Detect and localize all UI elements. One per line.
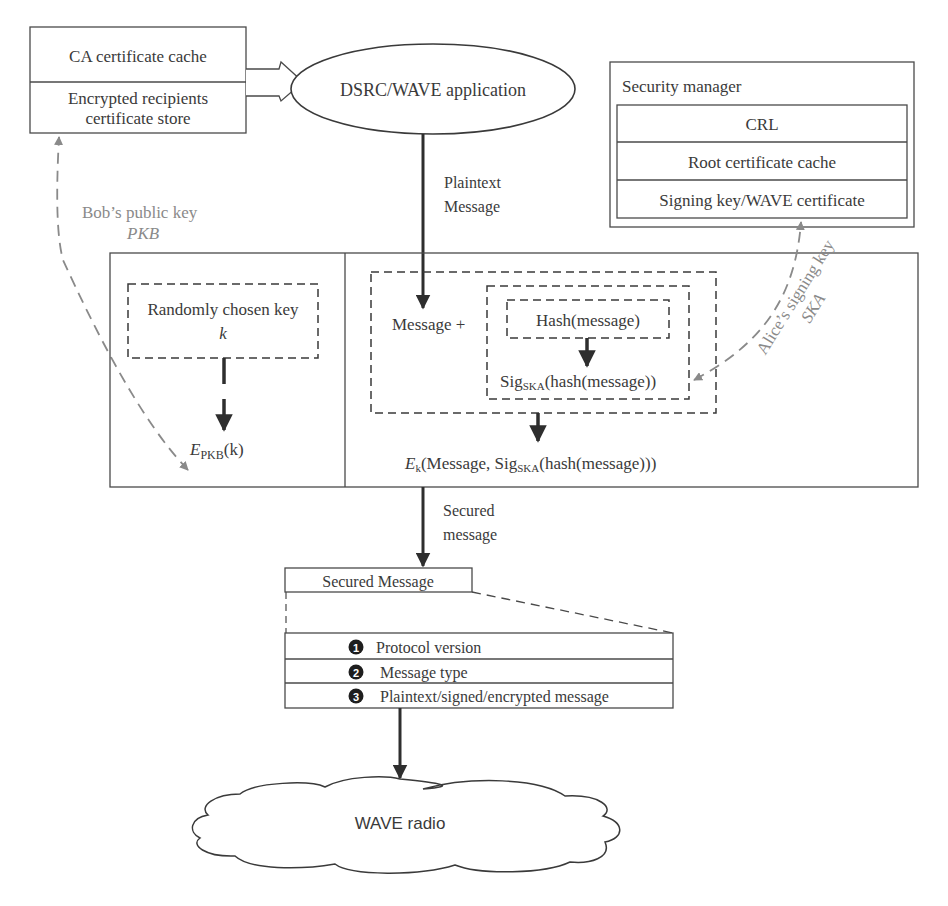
certificate-store-label: certificate store <box>85 109 190 128</box>
bob-key-label: Bob’s public key <box>82 203 198 222</box>
plaintext-label-line2: Message <box>444 198 500 216</box>
secured-message-title: Secured Message <box>322 573 434 591</box>
secured-label-line2: message <box>443 526 497 544</box>
alice-key-label: Alice’s signing key <box>752 236 838 358</box>
diagram-canvas: CA certificate cache Encrypted recipient… <box>0 0 948 906</box>
alice-key-label-group: Alice’s signing key SKA <box>752 236 856 369</box>
encrypted-output-label: Ek(Message, SigSKA(hash(message))) <box>404 454 656 474</box>
random-key-label: Randomly chosen key <box>147 300 299 319</box>
signature-label: SigSKA(hash(message)) <box>500 372 656 392</box>
root-certificate-cache-row: Root certificate cache <box>688 153 836 172</box>
random-key-symbol: k <box>219 324 227 343</box>
svg-text:2: 2 <box>353 667 359 679</box>
encrypted-key-label: EPKB(k) <box>189 440 244 462</box>
dsrc-wave-application: DSRC/WAVE application <box>291 44 575 134</box>
bob-key-symbol: PKB <box>126 224 160 243</box>
hash-label: Hash(message) <box>536 311 640 330</box>
signing-key-row: Signing key/WAVE certificate <box>659 191 865 210</box>
application-label: DSRC/WAVE application <box>340 80 526 100</box>
field-label: Plaintext/signed/encrypted message <box>380 688 609 706</box>
encryption-panel: Randomly chosen key k EPKB(k) <box>128 284 318 462</box>
wave-radio-label: WAVE radio <box>355 814 446 833</box>
ca-certificate-cache-label: CA certificate cache <box>69 47 207 66</box>
field-label: Protocol version <box>376 639 481 656</box>
security-manager: Security manager CRL Root certificate ca… <box>610 62 914 227</box>
wave-radio-cloud: WAVE radio <box>192 777 619 873</box>
svg-text:1: 1 <box>353 642 359 654</box>
plaintext-label-line1: Plaintext <box>444 174 501 191</box>
security-manager-title: Security manager <box>622 77 742 96</box>
encrypted-recipients-label: Encrypted recipients <box>68 89 208 108</box>
secured-message-structure: Secured Message 1 Protocol version 2 Mes… <box>285 568 673 708</box>
field-payload: 3 Plaintext/signed/encrypted message <box>349 688 609 706</box>
message-plus-label: Message + <box>392 315 465 334</box>
secured-label-line1: Secured <box>443 502 495 519</box>
svg-text:3: 3 <box>353 691 359 703</box>
ca-certificate-store: CA certificate cache Encrypted recipient… <box>30 27 246 133</box>
crl-row: CRL <box>745 115 778 134</box>
field-label: Message type <box>380 664 468 682</box>
